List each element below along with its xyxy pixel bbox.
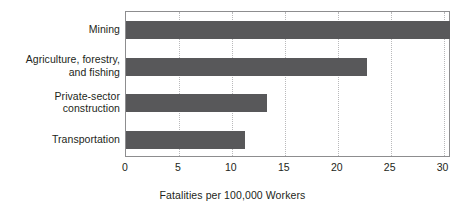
x-tick-label: 25 (370, 160, 410, 174)
category-label-line: construction (0, 102, 120, 115)
x-tick-label: 0 (105, 160, 145, 174)
x-tick-label: 10 (211, 160, 251, 174)
category-label: Private-sectorconstruction (0, 90, 120, 115)
bar (126, 21, 450, 39)
category-label: Agriculture, forestry,and fishing (0, 53, 120, 78)
x-tick-label: 20 (317, 160, 357, 174)
x-tick-label: 5 (158, 160, 198, 174)
bar-chart: MiningAgriculture, forestry,and fishingP… (0, 0, 465, 214)
bar (126, 131, 245, 149)
category-label: Mining (0, 23, 120, 36)
category-label-line: Mining (0, 23, 120, 36)
category-label-line: Agriculture, forestry, (0, 53, 120, 66)
x-tick-label: 15 (264, 160, 304, 174)
category-label-line: Transportation (0, 133, 120, 146)
bar-series (126, 12, 449, 156)
category-label: Transportation (0, 133, 120, 146)
category-axis: MiningAgriculture, forestry,and fishingP… (0, 11, 120, 157)
bar (126, 94, 267, 112)
x-axis-tick-labels: 051015202530 (125, 160, 450, 176)
bar (126, 58, 367, 76)
x-axis-title: Fatalities per 100,000 Workers (0, 189, 465, 201)
x-tick-label: 30 (423, 160, 463, 174)
category-label-line: and fishing (0, 66, 120, 79)
category-label-line: Private-sector (0, 90, 120, 103)
plot-area (125, 11, 450, 157)
